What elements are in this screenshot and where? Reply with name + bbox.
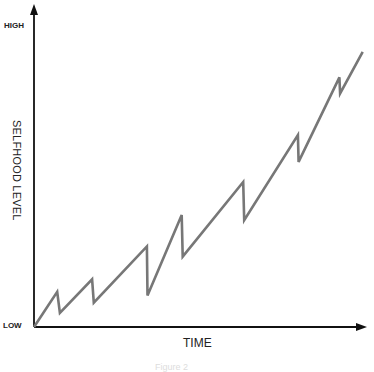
x-axis-arrow-icon [356, 323, 367, 331]
y-axis-arrow-icon [30, 4, 38, 15]
selfhood-line [34, 52, 363, 327]
